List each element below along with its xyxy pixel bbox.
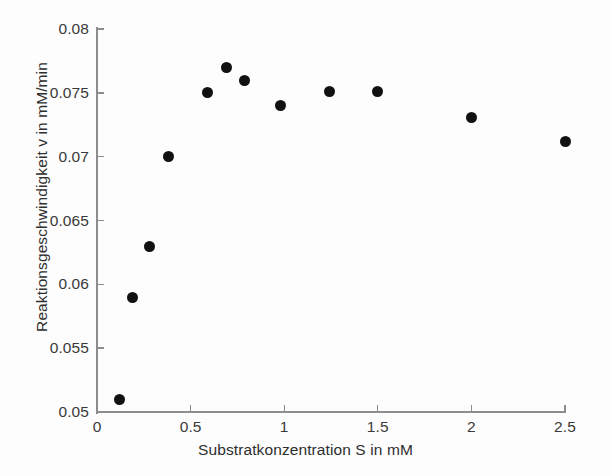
x-axis-tick-label: 2.5 <box>535 418 595 436</box>
data-point <box>560 136 571 147</box>
data-point <box>239 75 250 86</box>
y-axis-label: Reaktionsgeschwindigkeit v in mM/min <box>33 7 51 387</box>
data-point <box>324 86 335 97</box>
x-axis-tick-label: 1 <box>254 418 314 436</box>
x-axis-tick-label: 2 <box>441 418 501 436</box>
scatter-plot-figure: 0.050.0550.060.0650.070.0750.08 00.511.5… <box>0 0 611 476</box>
data-point <box>127 292 138 303</box>
x-axis-label: Substratkonzentration S in mM <box>0 441 611 459</box>
data-point <box>466 112 477 123</box>
data-point <box>221 62 232 73</box>
data-point <box>114 394 125 405</box>
data-point <box>275 100 286 111</box>
x-axis-tick-label: 0.5 <box>161 418 221 436</box>
data-point <box>163 151 174 162</box>
x-axis-tick-label: 0 <box>67 418 127 436</box>
data-point <box>144 241 155 252</box>
x-axis-tick-label: 1.5 <box>348 418 408 436</box>
